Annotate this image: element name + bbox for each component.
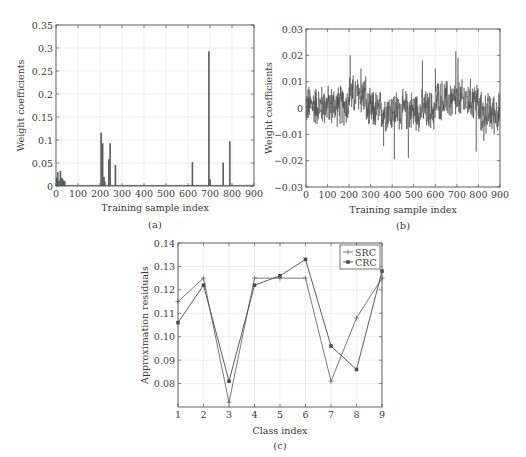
- x-tick-label: 700: [448, 189, 466, 200]
- bar: [100, 133, 102, 186]
- square-marker: [304, 258, 308, 262]
- x-tick-label: 400: [135, 188, 153, 199]
- chart-caption: (b): [396, 220, 410, 231]
- plot-frame: [56, 25, 254, 186]
- x-tick-label: 9: [379, 409, 385, 420]
- figure: 010020030040050060070080090000.050.10.15…: [0, 0, 526, 457]
- y-tick-label: 0.11: [154, 308, 175, 319]
- y-tick-label: 0.12: [154, 284, 175, 295]
- y-tick-label: 0.10: [154, 331, 175, 342]
- x-tick-label: 500: [405, 189, 423, 200]
- square-marker: [355, 368, 359, 372]
- y-tick-label: 0.35: [32, 20, 53, 31]
- chart-a-weight-coefficients-sparse: 010020030040050060070080090000.050.10.15…: [15, 20, 263, 231]
- y-axis-label: Weight coefficients: [263, 62, 274, 154]
- bar: [109, 143, 111, 186]
- x-tick-label: 3: [226, 409, 232, 420]
- x-axis-label: Training sample index: [101, 202, 209, 213]
- signal-line: [306, 51, 500, 159]
- x-tick-label: 1: [175, 409, 181, 420]
- y-tick-label: −0.03: [274, 182, 303, 193]
- legend-square-marker: [346, 260, 350, 264]
- x-tick-label: 4: [251, 409, 257, 420]
- x-tick-label: 700: [201, 188, 219, 199]
- y-tick-label: 0.08: [154, 378, 175, 389]
- x-tick-label: 200: [91, 188, 109, 199]
- y-tick-label: 0.03: [282, 24, 303, 35]
- x-tick-label: 500: [157, 188, 175, 199]
- y-tick-label: 0.09: [154, 355, 175, 366]
- gridlines: [56, 25, 254, 186]
- x-tick-label: 600: [179, 188, 197, 199]
- x-axis-label: Class index: [253, 425, 309, 436]
- x-tick-label: 900: [245, 188, 263, 199]
- x-tick-label: 7: [328, 409, 334, 420]
- x-tick-label: 5: [277, 409, 283, 420]
- x-tick-label: 6: [302, 409, 308, 420]
- chart-c-approximation-residuals: 1234567890.080.090.100.110.120.130.14Cla…: [139, 238, 385, 452]
- bar: [229, 141, 231, 186]
- square-marker: [329, 344, 333, 348]
- x-tick-label: 2: [200, 409, 206, 420]
- bar: [192, 162, 194, 186]
- bars: [56, 51, 254, 186]
- y-tick-label: 0.14: [154, 238, 175, 249]
- y-tick-label: −0.01: [274, 129, 303, 140]
- chart-b-weight-coefficients-dense: 0100200300400500600700800900−0.03−0.02−0…: [263, 24, 509, 232]
- y-tick-label: 0: [47, 181, 53, 192]
- square-marker: [202, 283, 206, 287]
- x-tick-labels: 0100200300400500600700800900: [53, 25, 263, 199]
- chart-caption: (a): [148, 219, 162, 230]
- y-tick-labels: 00.050.10.150.20.250.30.35: [32, 20, 254, 192]
- y-tick-label: 0.02: [282, 50, 303, 61]
- legend: SRCCRC: [340, 245, 380, 269]
- x-tick-label: 100: [318, 189, 336, 200]
- y-tick-label: 0.01: [282, 76, 303, 87]
- y-tick-label: 0.05: [32, 158, 53, 169]
- y-tick-label: 0.25: [32, 66, 53, 77]
- y-axis-label: Approximation residuals: [139, 266, 150, 385]
- x-tick-label: 900: [491, 189, 509, 200]
- y-tick-label: 0.1: [38, 135, 53, 146]
- y-tick-label: 0.2: [38, 89, 53, 100]
- x-tick-label: 200: [340, 189, 358, 200]
- chart-caption: (c): [273, 440, 287, 451]
- bar: [209, 179, 211, 186]
- square-marker: [278, 274, 282, 278]
- x-tick-label: 800: [223, 188, 241, 199]
- bar: [208, 51, 210, 186]
- y-tick-label: 0.15: [32, 112, 53, 123]
- x-axis-label: Training sample index: [349, 204, 457, 215]
- square-marker: [253, 283, 257, 287]
- y-tick-label: 0: [297, 103, 303, 114]
- x-tick-label: 300: [113, 188, 131, 199]
- x-tick-label: 800: [469, 189, 487, 200]
- bar: [222, 163, 224, 186]
- square-marker: [227, 379, 231, 383]
- x-tick-label: 0: [303, 189, 309, 200]
- y-tick-label: −0.02: [274, 155, 303, 166]
- y-tick-label: 0.3: [38, 43, 53, 54]
- x-tick-label: 600: [426, 189, 444, 200]
- legend-label: CRC: [355, 257, 377, 268]
- y-axis-label: Weight coefficients: [15, 59, 26, 151]
- x-tick-label: 400: [383, 189, 401, 200]
- x-tick-label: 100: [69, 188, 87, 199]
- y-tick-label: 0.13: [154, 261, 175, 272]
- bar: [115, 165, 117, 186]
- x-tick-label: 8: [353, 409, 359, 420]
- x-tick-label: 0: [53, 188, 59, 199]
- x-tick-label: 300: [362, 189, 380, 200]
